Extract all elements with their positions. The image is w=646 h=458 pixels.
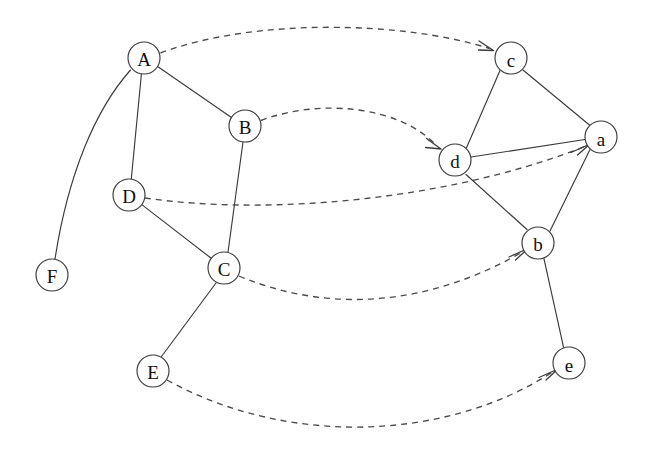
- node-A[interactable]: A: [128, 42, 160, 74]
- node-e[interactable]: e: [553, 347, 585, 379]
- node-c[interactable]: c: [495, 42, 527, 74]
- node-E[interactable]: E: [137, 355, 169, 387]
- solid-edge-layer: [55, 67, 590, 357]
- mapping-edge-D-to-a: [145, 146, 586, 205]
- edge-D-C: [142, 205, 212, 259]
- node-label-C: C: [218, 259, 231, 280]
- edge-d-a: [471, 140, 585, 158]
- mapping-edge-E-to-e: [167, 371, 554, 427]
- node-b[interactable]: b: [522, 227, 554, 259]
- mapping-edge-layer: [145, 27, 590, 427]
- edge-b-e: [544, 259, 564, 347]
- node-C[interactable]: C: [208, 252, 240, 284]
- node-D[interactable]: D: [113, 179, 145, 211]
- edge-b-a: [550, 150, 590, 232]
- edge-c-a: [523, 70, 590, 126]
- diagram-canvas: A B D C E F c: [0, 0, 646, 458]
- edge-B-C: [228, 142, 243, 252]
- graph-svg: A B D C E F c: [0, 0, 646, 458]
- node-label-b: b: [533, 234, 543, 255]
- arrowhead-d: [426, 139, 442, 150]
- node-label-e: e: [565, 355, 573, 376]
- node-label-D: D: [122, 186, 136, 207]
- edge-c-d: [467, 71, 501, 148]
- node-B[interactable]: B: [229, 110, 261, 142]
- node-label-A: A: [137, 49, 151, 70]
- mapping-edge-B-to-d: [261, 108, 437, 146]
- edge-d-b: [466, 175, 527, 230]
- node-label-d: d: [450, 151, 460, 172]
- mapping-edge-A-to-c: [161, 27, 490, 53]
- node-label-B: B: [239, 117, 252, 138]
- node-F[interactable]: F: [36, 259, 68, 291]
- node-d[interactable]: d: [439, 144, 471, 176]
- edge-A-F: [55, 70, 131, 259]
- edge-A-B: [158, 67, 233, 119]
- node-a[interactable]: a: [585, 121, 617, 153]
- node-label-a: a: [597, 129, 606, 150]
- node-layer: A B D C E F c: [36, 42, 617, 387]
- edge-A-D: [131, 74, 141, 179]
- node-label-c: c: [507, 50, 515, 71]
- node-label-E: E: [147, 362, 159, 383]
- node-label-F: F: [47, 266, 58, 287]
- mapping-edge-C-to-b: [239, 251, 524, 299]
- edge-C-E: [162, 283, 217, 357]
